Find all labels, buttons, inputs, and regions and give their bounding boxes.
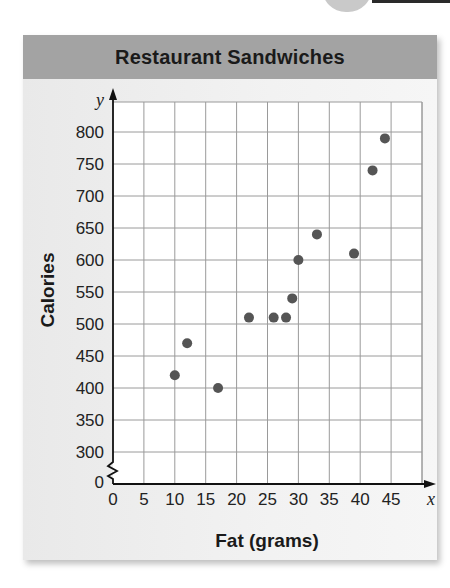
- svg-text:x: x: [426, 489, 435, 509]
- svg-text:450: 450: [76, 347, 104, 366]
- y-tick-labels: 0300350400450500550600650700750800y: [76, 90, 104, 492]
- svg-text:600: 600: [76, 251, 104, 270]
- data-point: [293, 255, 303, 265]
- svg-text:0: 0: [108, 490, 117, 509]
- svg-text:30: 30: [289, 490, 308, 509]
- data-point: [349, 249, 359, 259]
- x-tick-labels: 051015202530354045x: [108, 489, 435, 509]
- svg-text:800: 800: [76, 123, 104, 142]
- grid-lines: [113, 102, 422, 484]
- svg-text:20: 20: [227, 490, 246, 509]
- data-point: [281, 313, 291, 323]
- svg-text:y: y: [94, 90, 104, 110]
- svg-text:10: 10: [165, 490, 184, 509]
- svg-text:40: 40: [351, 490, 370, 509]
- data-point: [312, 229, 322, 239]
- svg-text:700: 700: [76, 187, 104, 206]
- y-axis-label: Calories: [37, 253, 59, 328]
- data-point: [213, 383, 223, 393]
- svg-text:0: 0: [95, 473, 104, 492]
- svg-text:350: 350: [76, 411, 104, 430]
- data-point: [182, 338, 192, 348]
- svg-text:550: 550: [76, 283, 104, 302]
- svg-text:35: 35: [320, 490, 339, 509]
- data-point: [170, 370, 180, 380]
- svg-text:300: 300: [76, 443, 104, 462]
- x-axis-label: Fat (grams): [215, 530, 318, 552]
- svg-text:15: 15: [196, 490, 215, 509]
- svg-text:25: 25: [258, 490, 277, 509]
- scatter-plot: 051015202530354045x 03003504004505005506…: [0, 0, 450, 588]
- data-point: [269, 313, 279, 323]
- svg-text:750: 750: [76, 155, 104, 174]
- data-point: [287, 293, 297, 303]
- svg-text:45: 45: [382, 490, 401, 509]
- svg-text:5: 5: [139, 490, 148, 509]
- data-point: [368, 165, 378, 175]
- svg-text:400: 400: [76, 379, 104, 398]
- svg-text:650: 650: [76, 219, 104, 238]
- data-point: [244, 313, 254, 323]
- data-point: [380, 133, 390, 143]
- svg-text:500: 500: [76, 315, 104, 334]
